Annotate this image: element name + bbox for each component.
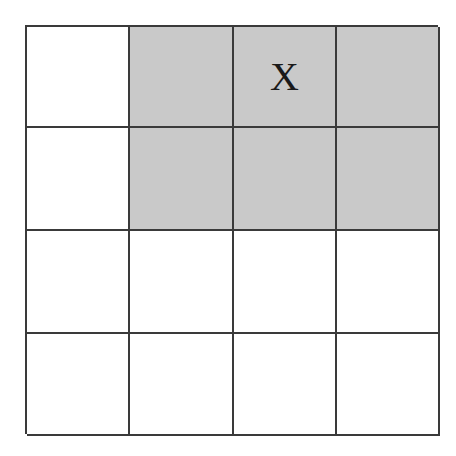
grid-cell-r0-c3: [337, 27, 440, 128]
grid-cell-r3-c3: [337, 334, 440, 436]
grid-cell-r1-c3: [337, 128, 440, 231]
grid-cell-r2-c2: [234, 231, 337, 334]
grid-cell-r0-c0: [27, 27, 130, 128]
grid-4x4: X: [25, 25, 438, 434]
grid-cell-r0-c1: [130, 27, 234, 128]
grid-cell-r3-c0: [27, 334, 130, 436]
grid-cell-r2-c1: [130, 231, 234, 334]
grid-cell-r2-c0: [27, 231, 130, 334]
grid-cell-r3-c1: [130, 334, 234, 436]
grid-cell-r2-c3: [337, 231, 440, 334]
grid-cell-r3-c2: [234, 334, 337, 436]
grid-cell-r1-c0: [27, 128, 130, 231]
grid-cell-r0-c2: X: [234, 27, 337, 128]
grid-cell-r1-c1: [130, 128, 234, 231]
grid-cell-r1-c2: [234, 128, 337, 231]
